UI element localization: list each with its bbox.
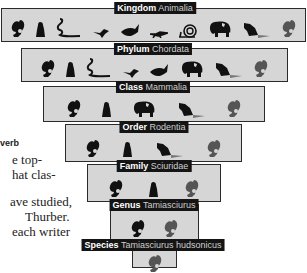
- groundhog-icon: [66, 62, 75, 78]
- squirrel-icon: [41, 58, 55, 78]
- icon-row: [111, 216, 198, 238]
- tier-species: [132, 248, 177, 268]
- elephant-icon: [132, 100, 156, 118]
- squirrel-gray-icon: [254, 58, 268, 78]
- groundhog-icon: [123, 142, 132, 158]
- fish-icon: [149, 62, 169, 78]
- beaver-icon: [215, 62, 243, 78]
- squirrel-gray-icon: [282, 18, 296, 38]
- groundhog-icon: [102, 102, 111, 118]
- bird-icon: [93, 28, 109, 38]
- icon-row: [22, 56, 287, 78]
- squirrel-gray-icon: [227, 98, 241, 118]
- label-class: Class Mammalia: [116, 81, 190, 93]
- side-text-line: hat clas-: [12, 167, 56, 183]
- icon-row: [66, 136, 241, 158]
- side-heading: verb: [0, 138, 19, 148]
- icon-row: [2, 16, 305, 38]
- label-species: Species Tamiasciurus hudsonicus: [82, 239, 225, 251]
- beaver-icon: [156, 142, 184, 158]
- squirrel-gray-icon: [207, 138, 221, 158]
- squirrel-icon: [131, 218, 145, 238]
- bird-icon: [123, 68, 139, 78]
- side-text-line: e top-: [12, 152, 42, 168]
- side-text-line: Thurber.: [25, 209, 69, 225]
- lizard-icon: [150, 30, 168, 38]
- elephant-icon: [180, 60, 204, 78]
- label-family: Family Sciuridae: [117, 160, 192, 172]
- snake-icon: [56, 18, 82, 38]
- icon-row: [44, 96, 264, 118]
- elephant-icon: [208, 20, 232, 38]
- squirrel-icon: [11, 18, 25, 38]
- label-genus: Genus Tamiasciurus: [110, 199, 199, 211]
- beaver-icon: [178, 102, 206, 118]
- label-kingdom: Kingdom Animalia: [114, 2, 196, 14]
- snake-icon: [86, 58, 112, 78]
- beaver-icon: [243, 22, 271, 38]
- side-text-line: each writer: [12, 224, 70, 240]
- icon-row: [88, 176, 220, 198]
- fish-icon: [120, 22, 140, 38]
- squirrel-icon: [109, 178, 123, 198]
- squirrel-gray-icon: [164, 218, 178, 238]
- side-text-line: ave studied,: [10, 194, 72, 210]
- icon-row: [133, 251, 176, 273]
- groundhog-icon: [36, 22, 45, 38]
- squirrel-gray-icon: [148, 253, 162, 273]
- label-phylum: Phylum Chordata: [114, 43, 192, 55]
- groundhog-icon: [149, 182, 158, 198]
- label-order: Order Rodentia: [119, 121, 188, 133]
- squirrel-icon: [86, 138, 100, 158]
- squirrel-icon: [67, 98, 81, 118]
- snail-icon: [179, 24, 197, 38]
- squirrel-gray-icon: [185, 178, 199, 198]
